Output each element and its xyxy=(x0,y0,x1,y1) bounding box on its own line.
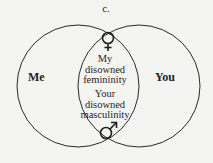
diagram-title: c. xyxy=(96,2,116,14)
label-you: You xyxy=(155,70,175,85)
text-line: masculinity xyxy=(70,110,140,121)
female-symbol-icon xyxy=(103,33,114,52)
male-symbol-icon xyxy=(101,123,117,139)
overlap-text-bottom: Your disowned masculinity xyxy=(70,89,140,121)
text-line: Your xyxy=(70,89,140,100)
label-me: Me xyxy=(28,70,45,85)
text-line: My xyxy=(70,54,140,65)
overlap-text-top: My disowned femininity xyxy=(70,54,140,86)
text-line: femininity xyxy=(70,75,140,86)
